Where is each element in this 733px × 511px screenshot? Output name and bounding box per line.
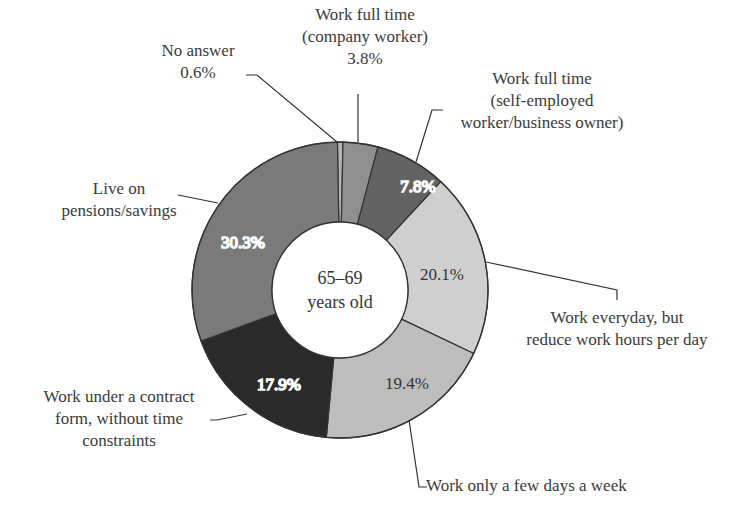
callout-reduce-hours: Work everyday, but reduce work hours per… <box>497 307 733 351</box>
center-label-unit: years old <box>280 290 400 314</box>
value-label-pensions: 30.3% <box>221 233 265 252</box>
value-label-few-days: 19.4% <box>385 374 429 393</box>
center-label: 65–69 years old <box>280 266 400 314</box>
center-label-age: 65–69 <box>280 266 400 290</box>
callout-pensions: Live on pensions/savings <box>52 178 186 222</box>
callout-company-worker: Work full time (company worker) 3.8% <box>290 4 440 70</box>
callout-self-employed: Work full time (self-employed worker/bus… <box>432 68 652 134</box>
callout-few-days: Work only a few days a week <box>426 475 666 497</box>
callout-no-answer: No answer 0.6% <box>148 40 248 84</box>
leader-contract <box>210 414 247 420</box>
leader-reduce-hours <box>486 262 617 300</box>
leader-few-days <box>409 420 427 487</box>
callout-contract: Work under a contract form, without time… <box>24 386 214 452</box>
leader-no-answer <box>246 75 337 142</box>
value-label-self-employed: 7.8% <box>400 177 435 196</box>
value-label-reduce-hours: 20.1% <box>420 265 464 284</box>
value-label-contract: 17.9% <box>257 375 301 394</box>
